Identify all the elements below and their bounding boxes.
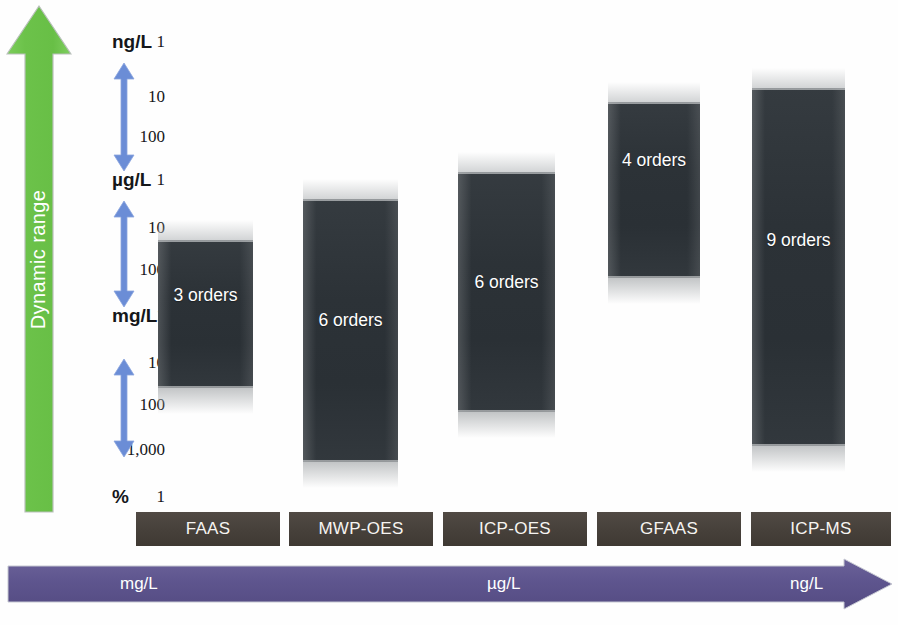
axis-tick-unit: % <box>112 486 129 508</box>
decade-range-arrow <box>112 62 136 172</box>
technique-label-box[interactable]: FAAS <box>136 512 280 546</box>
bar-body <box>608 102 700 278</box>
bar-top-fade <box>458 152 555 174</box>
bar-top-fade <box>303 179 398 201</box>
technique-label-text: ICP-OES <box>479 519 551 539</box>
bar-orders-label: 9 orders <box>752 230 845 251</box>
technique-label-box[interactable]: GFAAS <box>597 512 741 546</box>
technique-label-text: FAAS <box>186 519 231 539</box>
bar-body <box>158 240 253 388</box>
technique-label-box[interactable]: ICP-OES <box>443 512 587 546</box>
bar-orders-label: 3 orders <box>158 285 253 306</box>
bar-orders-label: 6 orders <box>458 272 555 293</box>
technique-label-text: MWP-OES <box>318 519 403 539</box>
technique-bar: 4 orders <box>608 102 700 278</box>
bar-bottom-fade <box>303 460 398 488</box>
technique-bar: 6 orders <box>303 199 398 462</box>
axis-tick-unit: ng/L <box>112 31 152 53</box>
bar-bottom-fade <box>608 276 700 304</box>
bar-top-fade <box>752 68 845 90</box>
bar-bottom-fade <box>158 386 253 414</box>
technique-bar: 3 orders <box>158 240 253 388</box>
technique-label-box[interactable]: ICP-MS <box>751 512 891 546</box>
bar-orders-label: 4 orders <box>608 150 700 171</box>
technique-bar: 6 orders <box>458 172 555 412</box>
technique-label-text: ICP-MS <box>790 519 851 539</box>
bar-top-fade <box>158 220 253 242</box>
technique-bar: 9 orders <box>752 88 845 446</box>
bar-bottom-fade <box>752 444 845 472</box>
axis-tick-unit: mg/L <box>112 305 157 327</box>
axis-tick: 1ng/L <box>60 31 165 53</box>
figure-canvas: Dynamic range 1ng/L101001µg/L101001mg/L1… <box>0 0 898 625</box>
axis-tick: 1mg/L <box>60 305 165 327</box>
technique-label-text: GFAAS <box>640 519 698 539</box>
axis-tick-unit: µg/L <box>112 169 151 191</box>
bar-bottom-fade <box>458 410 555 438</box>
bar-orders-label: 6 orders <box>303 310 398 331</box>
technique-label-box[interactable]: MWP-OES <box>289 512 433 546</box>
decade-range-arrow <box>112 358 136 458</box>
axis-tick-number: 1 <box>123 486 165 508</box>
bar-body <box>752 88 845 446</box>
concentration-arrow <box>6 558 894 610</box>
axis-tick: 1µg/L <box>60 169 165 191</box>
decade-range-arrow <box>112 200 136 308</box>
bar-top-fade <box>608 82 700 104</box>
axis-tick: 1% <box>60 486 165 508</box>
